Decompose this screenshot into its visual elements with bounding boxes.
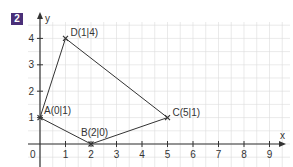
y-tick-label: 4 bbox=[28, 33, 34, 44]
x-axis-label: x bbox=[280, 130, 285, 141]
y-axis-arrow-icon bbox=[37, 12, 43, 19]
y-tick-label: 1 bbox=[28, 112, 34, 123]
diagram-stage: 2 xy0 1234567891234 A(0|1)B(2|0)C(5|1)D(… bbox=[0, 0, 293, 167]
grid-lines bbox=[28, 22, 290, 167]
axis-ticks: 1234567891234 bbox=[28, 33, 272, 160]
y-axis-label: y bbox=[45, 13, 50, 24]
x-tick-label: 4 bbox=[139, 149, 145, 160]
coordinate-plot: xy0 1234567891234 A(0|1)B(2|0)C(5|1)D(1|… bbox=[0, 0, 293, 167]
x-tick-label: 5 bbox=[165, 149, 171, 160]
point-label-d: D(1|4) bbox=[71, 27, 99, 38]
axes: xy0 bbox=[28, 12, 286, 167]
point-label-b: B(2|0) bbox=[81, 127, 108, 138]
x-tick-label: 6 bbox=[190, 149, 196, 160]
origin-label: 0 bbox=[30, 149, 36, 160]
point-label-a: A(0|1) bbox=[44, 105, 71, 116]
x-tick-label: 8 bbox=[241, 149, 247, 160]
x-tick-label: 7 bbox=[216, 149, 222, 160]
x-tick-label: 9 bbox=[267, 149, 273, 160]
exercise-number-badge: 2 bbox=[11, 13, 23, 25]
x-tick-label: 3 bbox=[114, 149, 120, 160]
x-tick-label: 2 bbox=[88, 149, 94, 160]
y-tick-label: 2 bbox=[28, 86, 34, 97]
point-label-c: C(5|1) bbox=[173, 107, 201, 118]
y-tick-label: 3 bbox=[28, 59, 34, 70]
x-tick-label: 1 bbox=[63, 149, 69, 160]
